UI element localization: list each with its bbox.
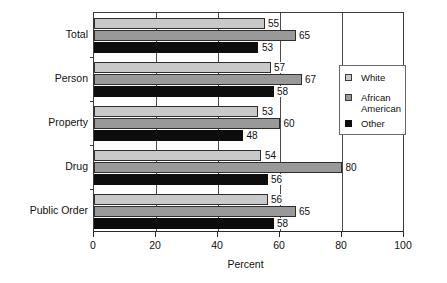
bar-person-african-american <box>94 74 302 85</box>
bar-chart: 55 65 53 57 67 58 53 60 48 54 80 56 56 6… <box>0 0 447 283</box>
x-tick-40 <box>217 232 218 237</box>
bar-property-other <box>94 130 243 141</box>
legend-item-african-american: African American <box>345 92 401 114</box>
category-label-drug: Drug <box>65 161 88 172</box>
bar-value-drug-white: 54 <box>264 150 277 161</box>
bar-drug-african-american <box>94 162 342 173</box>
bar-total-white <box>94 18 265 29</box>
bar-value-total-african-american: 65 <box>298 30 311 41</box>
y-tick-3 <box>90 189 94 190</box>
y-tick-0 <box>90 57 94 58</box>
legend-item-other: Other <box>345 118 385 129</box>
x-tick-label-20: 20 <box>149 239 161 251</box>
x-tick-100 <box>403 232 404 237</box>
bar-value-property-other: 48 <box>246 130 259 141</box>
bar-property-white <box>94 106 258 117</box>
legend-swatch-african-american-icon <box>345 94 352 101</box>
x-tick-60 <box>279 232 280 237</box>
bar-value-person-other: 58 <box>276 86 289 97</box>
bar-public-order-african-american <box>94 206 296 217</box>
bar-value-person-african-american: 67 <box>304 74 317 85</box>
bar-person-other <box>94 86 274 97</box>
category-label-person: Person <box>55 73 88 84</box>
bar-drug-other <box>94 174 268 185</box>
bar-value-person-white: 57 <box>273 62 286 73</box>
bar-value-public-order-african-american: 65 <box>298 206 311 217</box>
bar-total-african-american <box>94 30 296 41</box>
x-tick-label-0: 0 <box>90 239 96 251</box>
x-tick-label-40: 40 <box>211 239 223 251</box>
legend-label-other: Other <box>361 118 385 129</box>
y-tick-2 <box>90 145 94 146</box>
x-axis-title: Percent <box>0 258 447 270</box>
bar-drug-white <box>94 150 261 161</box>
legend: White African American Other <box>339 65 406 135</box>
legend-item-white: White <box>345 72 385 83</box>
bar-value-public-order-white: 56 <box>270 194 283 205</box>
category-label-public-order: Public Order <box>30 205 88 216</box>
x-tick-label-100: 100 <box>394 239 412 251</box>
bar-total-other <box>94 42 258 53</box>
bar-property-african-american <box>94 118 280 129</box>
legend-swatch-white-icon <box>345 74 352 81</box>
x-axis-title-text: Percent <box>227 258 263 270</box>
bar-value-property-white: 53 <box>261 106 274 117</box>
plot-area: 55 65 53 57 67 58 53 60 48 54 80 56 56 6… <box>93 12 404 232</box>
legend-label-white: White <box>361 72 385 83</box>
category-label-property: Property <box>48 117 88 128</box>
y-tick-1 <box>90 101 94 102</box>
bar-person-white <box>94 62 271 73</box>
x-tick-0 <box>93 232 94 237</box>
bar-value-drug-other: 56 <box>270 174 283 185</box>
legend-label-african-american: African American <box>361 92 401 114</box>
bar-value-property-african-american: 60 <box>283 118 296 129</box>
x-tick-80 <box>341 232 342 237</box>
legend-swatch-other-icon <box>345 120 352 127</box>
x-tick-label-60: 60 <box>273 239 285 251</box>
bar-value-total-white: 55 <box>267 18 280 29</box>
category-label-total: Total <box>66 29 88 40</box>
bar-public-order-white <box>94 194 268 205</box>
bar-value-drug-african-american: 80 <box>345 162 358 173</box>
bar-public-order-other <box>94 218 274 229</box>
bar-value-total-other: 53 <box>261 42 274 53</box>
bar-value-public-order-other: 58 <box>276 218 289 229</box>
x-tick-label-80: 80 <box>335 239 347 251</box>
x-tick-20 <box>155 232 156 237</box>
